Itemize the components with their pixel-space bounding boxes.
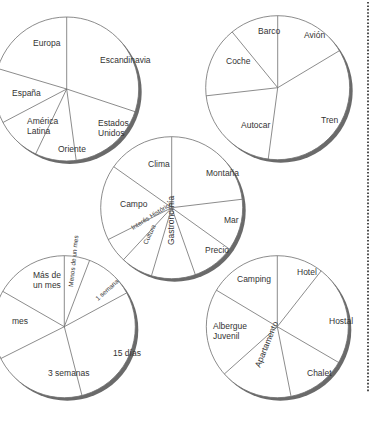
slice-label: España <box>12 88 41 98</box>
slice-label: Clima <box>148 159 170 169</box>
pie-accommodation: HotelHostalChaletApartamentoAlbergueJuve… <box>206 256 353 401</box>
slice-label: Europa <box>33 38 61 48</box>
slice-label: Oriente <box>58 144 86 154</box>
slice-label: Barco <box>258 26 280 36</box>
slice-label: Más deun mes <box>33 270 61 290</box>
slice-label: Montaña <box>206 168 239 178</box>
slice-label: Hostal <box>329 316 353 326</box>
slice-label: Hotel <box>297 267 317 277</box>
slice-label: Escandinavia <box>100 55 151 65</box>
slice-label: Chalet <box>307 368 332 378</box>
pie-transport: AviónTrenAutocarCocheBarco <box>206 16 353 163</box>
slice-label: Coche <box>226 56 251 66</box>
pie-duration: Menos de un mes1 semana15 días3 semanasm… <box>0 234 141 400</box>
slice-label: Campo <box>120 199 148 209</box>
pie-reasons: MontañaMarPrecioGastronomíaCulturaInteré… <box>101 137 246 282</box>
pie-chart-sheet: EscandinaviaEstadosUnidosOrienteAméricaL… <box>0 0 373 429</box>
slice-label: 15 días <box>113 348 141 358</box>
slice-label: Mar <box>224 215 239 225</box>
pie-charts-group: EscandinaviaEstadosUnidosOrienteAméricaL… <box>0 16 353 401</box>
slice-label: Avión <box>304 30 325 40</box>
slice-label: Camping <box>237 274 271 284</box>
slice-label: Tren <box>321 115 338 125</box>
slice-label: Autocar <box>241 120 270 130</box>
slice-label: mes <box>12 316 28 326</box>
slice-label: EstadosUnidos <box>98 118 129 138</box>
pie-destinations: EscandinaviaEstadosUnidosOrienteAméricaL… <box>0 17 151 164</box>
slice-label: Precio <box>205 245 229 255</box>
slice-label: 3 semanas <box>48 368 90 378</box>
